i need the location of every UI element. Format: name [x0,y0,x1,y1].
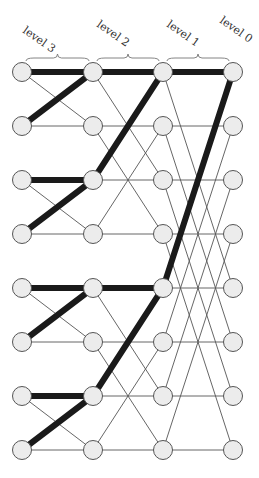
node-level-0-row-5 [224,333,243,352]
node-level-0-row-6 [224,387,243,406]
node-level-3-row-4 [13,279,32,298]
node-level-3-row-0 [13,63,32,82]
node-level-3-row-3 [13,225,32,244]
node-level-1-row-0 [154,63,173,82]
highlighted-path-edges [22,72,233,450]
node-level-0-row-2 [224,171,243,190]
node-level-0-row-3 [224,225,243,244]
level-3-label: level 3 [20,24,58,56]
node-level-2-row-1 [84,117,103,136]
node-level-2-row-3 [84,225,103,244]
node-level-0-row-7 [224,441,243,460]
node-level-3-row-7 [13,441,32,460]
node-level-1-row-1 [154,117,173,136]
node-level-2-row-7 [84,441,103,460]
node-level-3-row-1 [13,117,32,136]
node-level-1-row-2 [154,171,173,190]
node-level-1-row-4 [154,279,173,298]
level-brace [97,54,159,61]
node-level-1-row-3 [154,225,173,244]
node-level-0-row-1 [224,117,243,136]
level-labels: level 3 level 2 level 1 level 0 [20,14,255,56]
level-1-label: level 1 [164,18,202,50]
butterfly-network-diagram: level 3 level 2 level 1 level 0 [0,0,259,478]
level-braces [26,54,229,61]
node-level-3-row-2 [13,171,32,190]
node-level-2-row-0 [84,63,103,82]
node-level-3-row-5 [13,333,32,352]
node-level-1-row-6 [154,387,173,406]
node-level-1-row-7 [154,441,173,460]
node-level-3-row-6 [13,387,32,406]
level-0-label: level 0 [217,14,255,46]
node-level-2-row-2 [84,171,103,190]
level-brace [26,54,89,61]
node-level-0-row-4 [224,279,243,298]
node-level-2-row-4 [84,279,103,298]
node-level-2-row-6 [84,387,103,406]
level-brace [167,54,229,61]
node-level-1-row-5 [154,333,173,352]
node-level-2-row-5 [84,333,103,352]
level-2-label: level 2 [94,18,132,50]
node-level-0-row-0 [224,63,243,82]
